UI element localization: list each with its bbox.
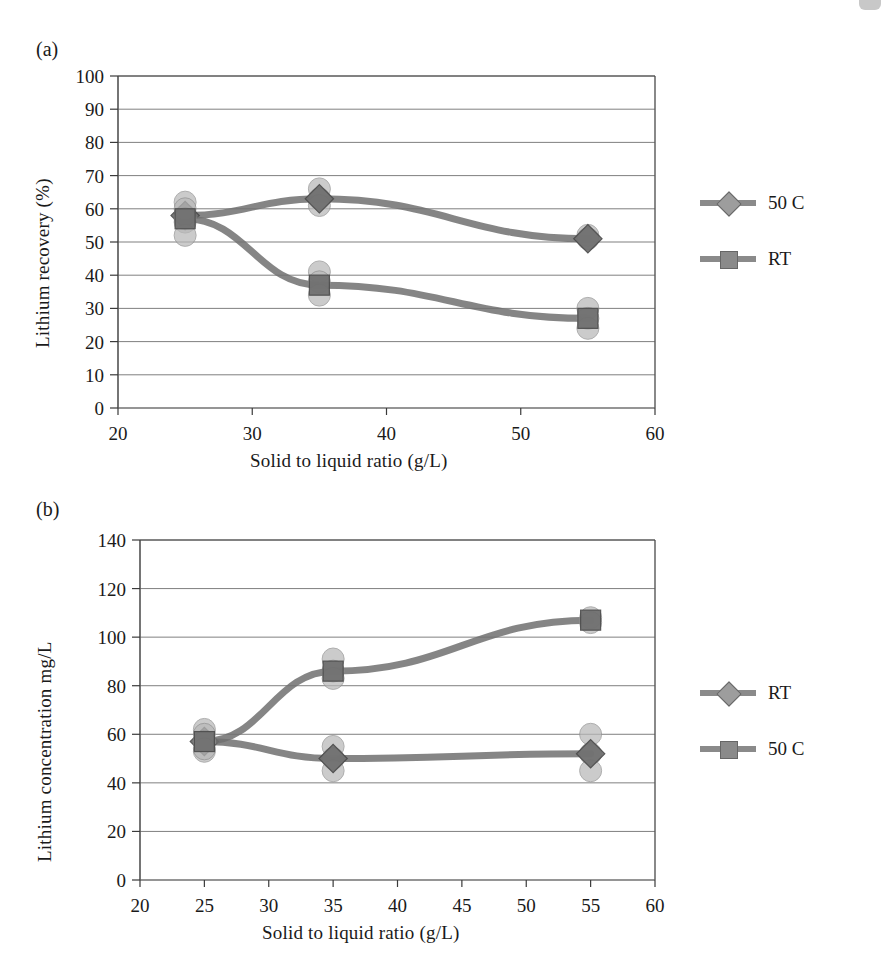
chart-panel-a: (a) 01020304050607080901002030405060 Lit… bbox=[0, 18, 889, 488]
series-marker bbox=[578, 308, 598, 328]
x-tick-label: 20 bbox=[131, 895, 150, 916]
x-tick-label: 35 bbox=[324, 895, 343, 916]
chart-b-x-axis-title: Solid to liquid ratio (g/L) bbox=[262, 922, 460, 944]
series-line bbox=[204, 742, 590, 759]
legend-swatch-icon bbox=[700, 244, 756, 274]
legend-swatch-icon bbox=[700, 188, 756, 218]
y-tick-label: 0 bbox=[95, 398, 105, 419]
series-marker bbox=[323, 661, 343, 681]
legend-item[interactable]: 50 C bbox=[700, 186, 804, 220]
y-tick-label: 40 bbox=[85, 265, 104, 286]
y-tick-label: 90 bbox=[85, 99, 104, 120]
legend-swatch-icon bbox=[700, 678, 756, 708]
y-tick-label: 140 bbox=[98, 530, 127, 551]
legend-item[interactable]: 50 C bbox=[700, 732, 804, 766]
y-tick-label: 70 bbox=[85, 166, 104, 187]
x-tick-label: 60 bbox=[646, 423, 665, 444]
figure-page: (a) 01020304050607080901002030405060 Lit… bbox=[0, 0, 889, 958]
series-marker bbox=[309, 275, 329, 295]
legend-label: 50 C bbox=[768, 738, 804, 760]
y-tick-label: 40 bbox=[107, 773, 126, 794]
chart-b-y-axis-title: Lithium concentration mg/L bbox=[34, 642, 56, 862]
x-tick-label: 50 bbox=[511, 423, 530, 444]
series-marker bbox=[581, 610, 601, 630]
y-tick-label: 60 bbox=[85, 199, 104, 220]
y-tick-label: 100 bbox=[98, 627, 127, 648]
legend-item[interactable]: RT bbox=[700, 676, 804, 710]
series-line bbox=[185, 199, 588, 239]
y-tick-label: 80 bbox=[85, 132, 104, 153]
chart-panel-b: (b) 020406080100120140202530354045505560… bbox=[0, 490, 889, 958]
x-tick-label: 40 bbox=[388, 895, 407, 916]
x-tick-label: 60 bbox=[646, 895, 665, 916]
y-tick-label: 80 bbox=[107, 676, 126, 697]
y-tick-label: 10 bbox=[85, 365, 104, 386]
chart-b-legend: RT50 C bbox=[700, 676, 804, 788]
x-tick-label: 45 bbox=[452, 895, 471, 916]
y-tick-label: 60 bbox=[107, 724, 126, 745]
x-tick-label: 30 bbox=[243, 423, 262, 444]
series-marker bbox=[576, 740, 604, 768]
chart-a-x-axis-title: Solid to liquid ratio (g/L) bbox=[250, 450, 448, 472]
y-tick-label: 50 bbox=[85, 232, 104, 253]
legend-swatch-icon bbox=[700, 734, 756, 764]
y-tick-label: 20 bbox=[107, 821, 126, 842]
x-tick-label: 40 bbox=[377, 423, 396, 444]
legend-label: 50 C bbox=[768, 192, 804, 214]
x-tick-label: 25 bbox=[195, 895, 214, 916]
x-tick-label: 20 bbox=[109, 423, 128, 444]
legend-label: RT bbox=[768, 248, 791, 270]
series-marker bbox=[574, 225, 602, 253]
x-tick-label: 30 bbox=[259, 895, 278, 916]
x-tick-label: 50 bbox=[517, 895, 536, 916]
y-tick-label: 20 bbox=[85, 332, 104, 353]
series-marker bbox=[194, 732, 214, 752]
legend-item[interactable]: RT bbox=[700, 242, 804, 276]
y-tick-label: 120 bbox=[98, 579, 127, 600]
chart-a-legend: 50 CRT bbox=[700, 186, 804, 298]
series-marker bbox=[175, 209, 195, 229]
page-corner-artifact bbox=[859, 0, 881, 10]
y-tick-label: 0 bbox=[117, 870, 127, 891]
series-line bbox=[204, 620, 590, 741]
y-tick-label: 30 bbox=[85, 298, 104, 319]
x-tick-label: 55 bbox=[581, 895, 600, 916]
chart-a-y-axis-title: Lithium recovery (%) bbox=[32, 178, 54, 348]
y-tick-label: 100 bbox=[76, 66, 105, 87]
legend-label: RT bbox=[768, 682, 791, 704]
